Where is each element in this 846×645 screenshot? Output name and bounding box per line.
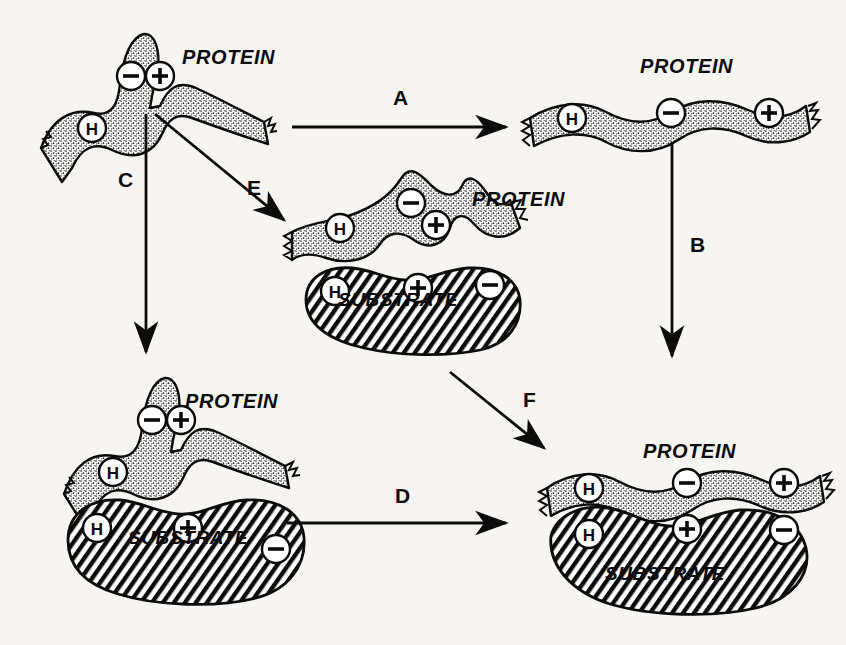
- svg-text:H: H: [566, 110, 578, 129]
- charge-badge-negative: [397, 189, 425, 217]
- arrow-label-d: D: [395, 484, 410, 508]
- substrate-charge-badge-negative: [262, 535, 290, 563]
- hydrogen-badge: H: [78, 114, 106, 142]
- charge-badge-negative: [117, 62, 145, 90]
- hydrogen-badge: H: [558, 104, 586, 132]
- svg-text:H: H: [583, 526, 595, 545]
- substrate-hydrogen-badge: H: [575, 520, 603, 548]
- substrate-charge-badge-negative: [770, 516, 798, 544]
- diagram-drawing: H H: [0, 0, 846, 645]
- svg-text:H: H: [334, 220, 346, 239]
- hydrogen-badge: H: [99, 458, 127, 486]
- node-complex-final: H H: [539, 469, 834, 614]
- charge-badge-positive: [755, 99, 783, 127]
- substrate-charge-badge-negative: [476, 271, 504, 299]
- charge-badge-positive: [146, 62, 174, 90]
- label-protein-bound: PROTEIN: [185, 390, 278, 413]
- charge-badge-negative: [673, 469, 701, 497]
- label-protein-denatured: PROTEIN: [640, 55, 733, 78]
- hydrogen-badge: H: [575, 474, 603, 502]
- arrow-label-a: A: [393, 86, 408, 110]
- svg-text:H: H: [91, 520, 103, 539]
- label-substrate-partial: SUBSTRATE: [338, 289, 458, 311]
- label-protein-partial: PROTEIN: [472, 188, 565, 211]
- charge-badge-positive: [770, 469, 798, 497]
- svg-text:H: H: [86, 120, 98, 139]
- label-substrate-final: SUBSTRATE: [605, 563, 725, 585]
- label-protein-final: PROTEIN: [643, 440, 736, 463]
- label-substrate-bound: SUBSTRATE: [128, 527, 248, 549]
- arrow-label-f: F: [523, 388, 536, 412]
- charge-badge-positive: [422, 211, 450, 239]
- label-protein-native: PROTEIN: [182, 46, 275, 69]
- charge-badge-negative: [657, 99, 685, 127]
- hydrogen-badge: H: [326, 214, 354, 242]
- protein-frayed-end-left: [539, 488, 547, 516]
- charge-badge-negative: [138, 406, 166, 434]
- figure-canvas: H H: [0, 0, 846, 645]
- arrow-label-e: E: [247, 176, 261, 200]
- arrow-label-c: C: [118, 168, 133, 192]
- svg-text:H: H: [583, 480, 595, 499]
- arrow-label-b: B: [690, 233, 705, 257]
- svg-text:H: H: [107, 464, 119, 483]
- substrate-charge-badge-positive: [673, 515, 701, 543]
- protein-frayed-end-left: [522, 118, 530, 146]
- substrate-hydrogen-badge: H: [83, 514, 111, 542]
